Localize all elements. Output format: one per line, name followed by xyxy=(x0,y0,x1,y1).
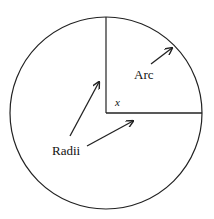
radii-arrow-2 xyxy=(87,121,133,146)
circle-diagram: Arc Radii x xyxy=(0,0,214,219)
arc-label: Arc xyxy=(134,67,154,82)
radii-arrow-1 xyxy=(70,82,99,136)
arc-arrow xyxy=(151,48,172,64)
angle-label: x xyxy=(114,96,120,108)
radii-label: Radii xyxy=(52,143,81,158)
